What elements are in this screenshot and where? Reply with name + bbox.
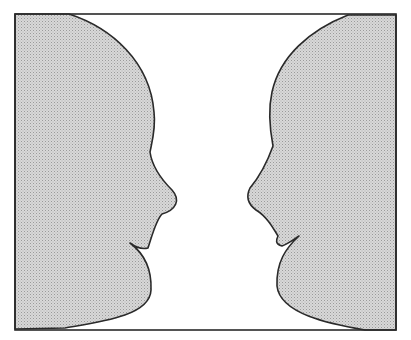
- rubin-vase-figure: [0, 0, 411, 340]
